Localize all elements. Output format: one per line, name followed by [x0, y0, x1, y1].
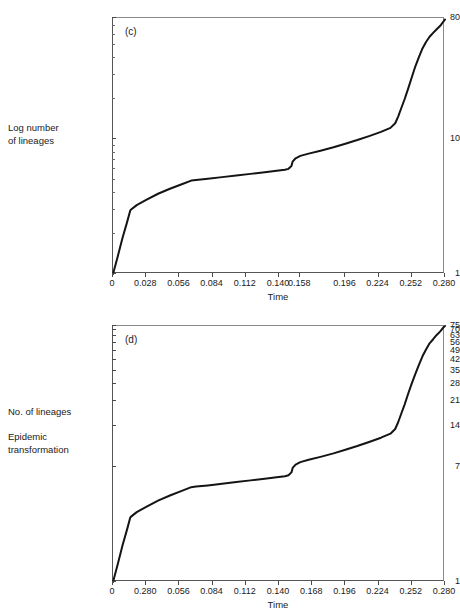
- y-tick-mark: [112, 383, 116, 384]
- x-tick-mark: [378, 273, 379, 277]
- x-tick-label: 0.168: [300, 586, 323, 596]
- y-tick-minor: [112, 209, 115, 210]
- x-tick-label: 0.280: [433, 278, 456, 288]
- y-tick-minor: [112, 159, 115, 160]
- y-tick-mark: [112, 342, 116, 343]
- y-tick-minor: [112, 44, 115, 45]
- panel-c: Log number of lineages (c) 11080 00.0280…: [0, 0, 460, 308]
- y-tick-mark: [112, 370, 116, 371]
- x-tick-label: 0.158: [288, 278, 311, 288]
- y-tick-label: 21: [354, 395, 460, 405]
- x-tick-label: 0.196: [333, 586, 356, 596]
- y-tick-minor: [112, 34, 115, 35]
- y-tick-minor: [112, 152, 115, 153]
- panel-d-side-label: No. of lineages Epidemic transformation: [8, 406, 100, 456]
- y-tick-mark: [112, 17, 116, 18]
- y-tick-minor: [112, 168, 115, 169]
- x-tick-label: 0: [109, 278, 114, 288]
- x-tick-mark: [112, 581, 113, 585]
- y-tick-label: 7: [354, 461, 460, 471]
- x-tick-mark: [311, 581, 312, 585]
- panel-c-x-axis-title: Time: [268, 291, 289, 302]
- panel-c-side-label: Log number of lineages: [8, 122, 88, 147]
- y-tick-label: 80: [354, 12, 460, 22]
- x-tick-label: 0.252: [400, 278, 423, 288]
- panel-d-x-axis-title: Time: [268, 599, 289, 610]
- x-tick-label: 0.196: [333, 278, 356, 288]
- y-tick-mark: [112, 466, 116, 467]
- x-tick-label: 0.252: [400, 586, 423, 596]
- y-tick-minor: [112, 179, 115, 180]
- panel-c-curve: [113, 18, 445, 274]
- y-tick-minor: [112, 98, 115, 99]
- x-tick-label: 0.084: [200, 586, 223, 596]
- x-tick-label: 0.280: [134, 586, 157, 596]
- x-tick-mark: [278, 273, 279, 277]
- x-tick-label: 0.224: [366, 278, 389, 288]
- x-tick-mark: [178, 581, 179, 585]
- y-tick-minor: [112, 192, 115, 193]
- x-tick-label: 0.056: [167, 278, 190, 288]
- x-tick-label: 0.056: [167, 586, 190, 596]
- x-tick-mark: [178, 273, 179, 277]
- x-tick-mark: [344, 273, 345, 277]
- x-tick-label: 0: [109, 586, 114, 596]
- y-tick-minor: [112, 145, 115, 146]
- x-tick-mark: [278, 581, 279, 585]
- y-tick-mark: [112, 325, 116, 326]
- y-tick-mark: [112, 400, 116, 401]
- x-tick-mark: [411, 273, 412, 277]
- x-tick-mark: [444, 581, 445, 585]
- x-tick-label: 0.112: [234, 278, 256, 288]
- x-tick-mark: [378, 581, 379, 585]
- y-tick-label: 14: [354, 420, 460, 430]
- y-tick-label: 42: [354, 354, 460, 364]
- x-tick-label: 0.280: [433, 586, 456, 596]
- y-tick-label: 35: [354, 365, 460, 375]
- y-tick-minor: [112, 25, 115, 26]
- x-tick-label: 0.084: [200, 278, 223, 288]
- y-tick-minor: [112, 57, 115, 58]
- y-tick-label: 10: [354, 133, 460, 143]
- y-tick-label: 75: [354, 320, 460, 330]
- y-tick-mark: [112, 425, 116, 426]
- x-tick-mark: [145, 273, 146, 277]
- y-tick-mark: [112, 335, 116, 336]
- x-tick-label: 0.028: [134, 278, 157, 288]
- x-tick-label: 0.224: [366, 586, 389, 596]
- x-tick-mark: [145, 581, 146, 585]
- x-tick-mark: [212, 581, 213, 585]
- y-tick-mark: [112, 350, 116, 351]
- y-tick-mark: [112, 329, 116, 330]
- y-tick-label: 28: [354, 378, 460, 388]
- x-tick-mark: [112, 273, 113, 277]
- x-tick-mark: [344, 581, 345, 585]
- x-tick-mark: [245, 581, 246, 585]
- y-tick-mark: [112, 359, 116, 360]
- x-tick-mark: [444, 273, 445, 277]
- x-tick-label: 0.140: [267, 278, 290, 288]
- y-tick-mark: [112, 138, 116, 139]
- x-tick-mark: [411, 581, 412, 585]
- y-tick-minor: [112, 233, 115, 234]
- x-tick-label: 0.112: [234, 586, 256, 596]
- panel-d: No. of lineages Epidemic transformation …: [0, 308, 460, 616]
- x-tick-mark: [245, 273, 246, 277]
- y-tick-minor: [112, 74, 115, 75]
- x-tick-mark: [212, 273, 213, 277]
- panel-c-plot-area: (c): [112, 17, 444, 273]
- x-tick-mark: [299, 273, 300, 277]
- x-tick-label: 0.140: [267, 586, 290, 596]
